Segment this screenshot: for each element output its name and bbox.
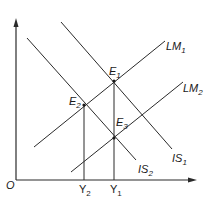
y2-tick-label: Y2 [79, 183, 91, 198]
e1-label: E1 [109, 65, 121, 80]
is2-label: IS2 [138, 163, 153, 178]
y1-tick-label: Y1 [110, 183, 122, 198]
lm1-label: LM1 [166, 40, 186, 55]
x-axis-arrow-icon [188, 178, 197, 183]
lm1-curve [34, 41, 165, 147]
y-axis [14, 18, 19, 180]
x-axis [16, 178, 197, 183]
y-axis-arrow-icon [14, 18, 19, 27]
lm2-label: LM2 [183, 82, 203, 97]
e1-point [112, 79, 115, 82]
is1-curve [61, 22, 172, 149]
e3-point [112, 136, 115, 139]
is2-curve [27, 38, 136, 160]
is-lm-diagram: LM1 LM2 IS1 IS2 E1 E2 E3 O Y2 Y1 [0, 0, 207, 199]
is1-label: IS1 [172, 152, 187, 167]
origin-label: O [6, 179, 15, 191]
e2-point [82, 103, 85, 106]
e3-label: E3 [116, 116, 128, 131]
